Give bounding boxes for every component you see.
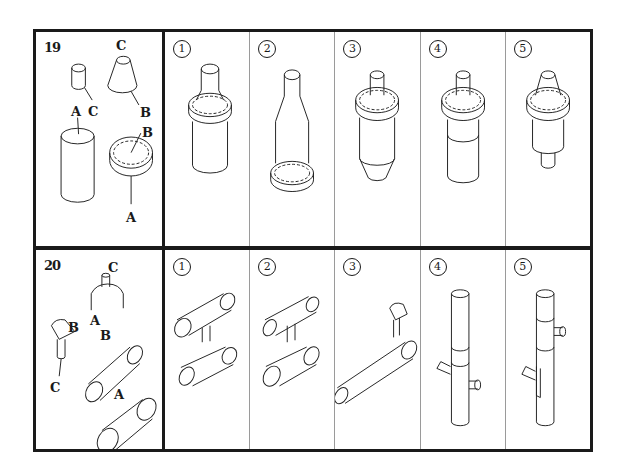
- option-5[interactable]: 5: [506, 250, 590, 449]
- assembled-shape-icon: [165, 250, 249, 449]
- part-label-a: A: [71, 104, 81, 119]
- assembled-shape-icon: [506, 250, 590, 449]
- assembled-shape-icon: [250, 250, 334, 449]
- puzzle-sheet: 19 C C: [33, 29, 593, 452]
- assembled-shape-icon: [335, 250, 419, 449]
- question-20-options: 1 2: [165, 250, 590, 449]
- option-3[interactable]: 3: [335, 32, 420, 246]
- part-label-c: C: [116, 38, 126, 53]
- assembled-shape-icon: [506, 32, 590, 246]
- part-label-c: C: [108, 260, 118, 275]
- assembled-shape-icon: [335, 32, 419, 246]
- option-2[interactable]: 2: [250, 32, 335, 246]
- parts-diagram-icon: [36, 250, 162, 449]
- option-1[interactable]: 1: [165, 250, 250, 449]
- option-4[interactable]: 4: [421, 32, 506, 246]
- question-19-key-panel: 19 C C: [36, 32, 165, 246]
- option-1[interactable]: 1: [165, 32, 250, 246]
- assembled-shape-icon: [421, 250, 505, 449]
- question-20-key-panel: 20 C A B B C: [36, 250, 165, 449]
- part-label-a: A: [126, 210, 136, 225]
- part-label-b: B: [100, 328, 111, 343]
- assembled-shape-icon: [421, 32, 505, 246]
- part-label-b: B: [68, 320, 79, 335]
- question-20-row: 20 C A B B C: [33, 247, 593, 452]
- option-5[interactable]: 5: [506, 32, 590, 246]
- question-19-options: 1 2: [165, 32, 590, 246]
- option-4[interactable]: 4: [421, 250, 506, 449]
- assembled-shape-icon: [165, 32, 249, 246]
- assembled-shape-icon: [250, 32, 334, 246]
- part-label-b: B: [140, 105, 151, 120]
- option-2[interactable]: 2: [250, 250, 335, 449]
- part-label-b: B: [142, 125, 153, 140]
- part-label-a: A: [114, 387, 124, 402]
- part-label-c: C: [88, 104, 98, 119]
- question-19-row: 19 C C: [33, 29, 593, 249]
- part-label-a: A: [90, 313, 100, 328]
- part-label-c: C: [50, 380, 60, 395]
- option-3[interactable]: 3: [335, 250, 420, 449]
